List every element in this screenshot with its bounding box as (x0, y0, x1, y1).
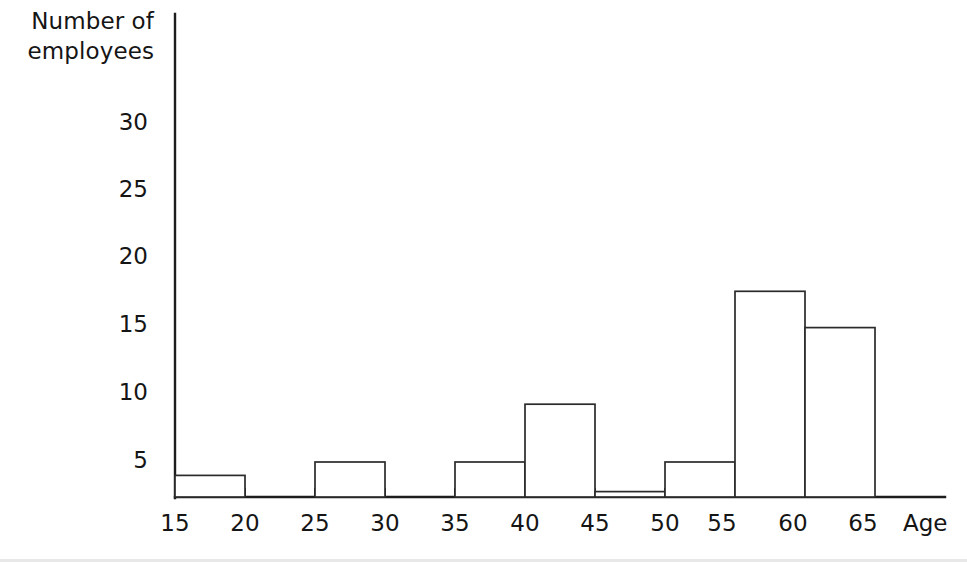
chart-canvas (0, 0, 967, 562)
y-tick-label-25: 25 (88, 178, 148, 201)
histogram-bars (175, 291, 875, 497)
x-tick-label-25: 25 (285, 512, 345, 535)
histogram-bar-40-45 (525, 404, 595, 497)
y-axis-title: Number of employees (14, 6, 154, 67)
y-tick-label-15: 15 (88, 313, 148, 336)
y-tick-label-20: 20 (88, 245, 148, 268)
x-tick-label-55: 55 (692, 512, 752, 535)
histogram-bar-45-50 (595, 492, 665, 497)
histogram-bar-50-55 (665, 462, 735, 497)
y-tick-label-10: 10 (88, 381, 148, 404)
y-axis-title-line2: employees (14, 36, 154, 66)
histogram-bar-55-60 (735, 291, 805, 497)
histogram-chart: Number of employees 30 25 20 15 10 5 15 … (0, 0, 967, 562)
x-tick-label-35: 35 (425, 512, 485, 535)
x-tick-label-50: 50 (635, 512, 695, 535)
x-tick-label-65: 65 (833, 512, 893, 535)
x-tick-label-60: 60 (763, 512, 823, 535)
x-axis-title: Age (903, 512, 947, 535)
y-tick-label-30: 30 (88, 111, 148, 134)
x-tick-label-30: 30 (355, 512, 415, 535)
histogram-bar-25-30 (315, 462, 385, 497)
y-axis-title-line1: Number of (14, 6, 154, 36)
y-tick-label-5: 5 (88, 449, 148, 472)
x-tick-label-20: 20 (215, 512, 275, 535)
x-tick-label-15: 15 (145, 512, 205, 535)
histogram-bar-60-65 (805, 328, 875, 497)
histogram-bar-15-20 (175, 475, 245, 497)
histogram-bar-35-40 (455, 462, 525, 497)
x-tick-label-40: 40 (495, 512, 555, 535)
x-tick-label-45: 45 (565, 512, 625, 535)
